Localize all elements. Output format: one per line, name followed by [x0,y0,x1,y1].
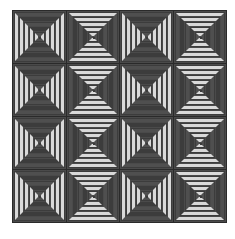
quilt-center [39,143,41,145]
quilt-block-a [13,170,66,222]
quilt-block-a [13,11,66,63]
quilt-block-b [67,117,120,169]
quilt-block-b [174,64,227,116]
quilt-center [146,143,148,145]
quilt-center [39,196,41,198]
quilt-block-a [120,64,173,116]
quilt-center [146,37,148,39]
quilt-center [200,143,202,145]
quilt-center [39,37,41,39]
quilt-center [200,90,202,92]
quilt-block-a [13,117,66,169]
quilt-center [200,196,202,198]
quilt-grid [12,10,227,223]
quilt-block-b [67,11,120,63]
quilt-block-a [120,11,173,63]
quilt-block-b [67,64,120,116]
quilt-center [93,143,95,145]
quilt-center [93,90,95,92]
quilt-center [39,90,41,92]
quilt-block-b [174,117,227,169]
quilt-block-a [120,170,173,222]
quilt-center [146,196,148,198]
quilt-block-a [13,64,66,116]
quilt-block-b [174,11,227,63]
quilt-center [146,90,148,92]
quilt-center [200,37,202,39]
quilt-center [93,37,95,39]
quilt-block-b [67,170,120,222]
quilt-center [93,196,95,198]
quilt-block-a [120,117,173,169]
quilt-block-b [174,170,227,222]
